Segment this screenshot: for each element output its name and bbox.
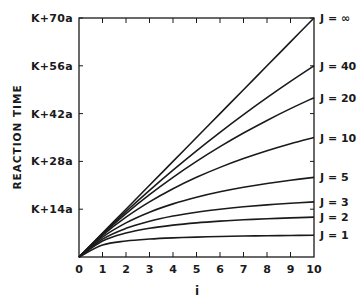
reaction-time-chart: K+14aK+28aK+42aK+56aK+70a 012345678910 J… <box>0 0 364 304</box>
series-labels: J = ∞J = 40J = 20J = 10J = 5J = 3J = 2J … <box>319 12 357 242</box>
x-tick-label: 1 <box>99 263 107 276</box>
series-label: J = 10 <box>319 132 357 145</box>
series-label: J = ∞ <box>319 12 350 25</box>
series-label: J = 2 <box>319 211 349 224</box>
y-tick-label: K+42a <box>31 108 73 121</box>
series-lines <box>79 18 314 257</box>
y-tick-label: K+28a <box>31 155 73 168</box>
x-tick-label: 0 <box>75 263 83 276</box>
x-tick-label: 2 <box>122 263 130 276</box>
x-tick-label: 10 <box>306 263 322 276</box>
x-axis-title: i <box>195 284 199 298</box>
y-axis-title: REACTION TIME <box>11 84 23 189</box>
series-label: J = 20 <box>319 92 357 105</box>
x-tick-label: 9 <box>287 263 295 276</box>
y-tick-label: K+70a <box>31 12 73 25</box>
y-tick-label: K+14a <box>31 203 73 216</box>
x-tick-label: 5 <box>193 263 201 276</box>
series-line <box>79 177 314 257</box>
y-tick-label: K+56a <box>31 60 73 73</box>
series-label: J = 1 <box>319 229 349 242</box>
x-tick-label: 7 <box>240 263 248 276</box>
series-label: J = 5 <box>319 171 349 184</box>
series-label: J = 3 <box>319 196 349 209</box>
series-line <box>79 18 314 257</box>
x-tick-label: 6 <box>216 263 224 276</box>
x-tick-label: 3 <box>146 263 154 276</box>
y-axis-ticks: K+14aK+28aK+42aK+56aK+70a <box>31 12 314 216</box>
x-tick-label: 4 <box>169 263 177 276</box>
series-label: J = 40 <box>319 60 357 73</box>
x-tick-label: 8 <box>263 263 271 276</box>
